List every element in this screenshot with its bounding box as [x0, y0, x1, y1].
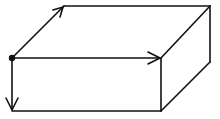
- top-right-edge: [161, 6, 210, 58]
- height-axis-arrow: [6, 58, 18, 110]
- box-diagram: [0, 0, 220, 119]
- width-axis-arrow: [12, 52, 160, 64]
- origin-dot: [9, 55, 15, 61]
- right-bottom-edge: [161, 62, 210, 111]
- depth-axis-arrow: [12, 6, 64, 58]
- box-diagram-svg: [0, 0, 220, 119]
